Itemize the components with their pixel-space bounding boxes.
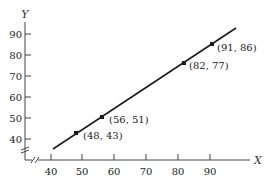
x-tick-label: 70 bbox=[140, 166, 153, 177]
y-tick-label: 60 bbox=[9, 92, 22, 103]
x-tick-label: 50 bbox=[76, 166, 89, 177]
x-tick-label: 80 bbox=[172, 166, 185, 177]
point-label: (56, 51) bbox=[109, 114, 149, 125]
y-tick-label: 80 bbox=[9, 50, 22, 61]
x-tick-label: 40 bbox=[45, 166, 58, 177]
y-tick-label: 90 bbox=[9, 29, 22, 40]
data-point bbox=[182, 61, 186, 65]
y-tick-label: 50 bbox=[9, 113, 22, 124]
scatter-chart: 90 80 70 60 50 40 40 50 60 70 80 90 Y X … bbox=[0, 0, 271, 181]
x-tick-label: 60 bbox=[108, 166, 121, 177]
x-axis-break bbox=[31, 157, 39, 163]
point-label: (48, 43) bbox=[83, 130, 123, 141]
y-ticks bbox=[25, 34, 31, 139]
x-tick-label: 90 bbox=[204, 166, 217, 177]
x-ticks bbox=[51, 154, 210, 160]
x-axis-label: X bbox=[253, 154, 263, 167]
point-label: (82, 77) bbox=[189, 60, 229, 71]
point-label: (91, 86) bbox=[217, 42, 257, 53]
y-tick-label: 40 bbox=[9, 134, 22, 145]
regression-line bbox=[53, 28, 236, 149]
data-point bbox=[74, 131, 78, 135]
y-tick-label: 70 bbox=[9, 71, 22, 82]
y-axis-label: Y bbox=[21, 8, 30, 21]
data-point bbox=[210, 42, 214, 46]
data-point bbox=[100, 115, 104, 119]
